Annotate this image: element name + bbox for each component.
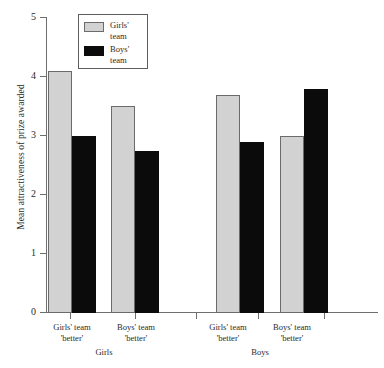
bar-boys-team-boys-better (135, 151, 159, 313)
bar-girls-team-boys-better (111, 106, 135, 313)
bar-boys-team-girls-better-2 (240, 142, 264, 313)
x-label-4: Boys' team 'better' (252, 322, 332, 344)
y-tick-label-0: 0 (22, 306, 36, 317)
boys-swatch-icon (84, 46, 104, 56)
legend-label-girls-line2: team (110, 31, 129, 42)
bar-girls-team-girls-better-2 (216, 95, 240, 313)
legend-label-girls-team: Girls' team (110, 20, 129, 41)
y-tick-1 (40, 253, 46, 254)
x-tick-4 (258, 313, 259, 319)
legend-label-boys-team: Boys' team (110, 44, 129, 65)
y-tick-3 (40, 135, 46, 136)
bar-girls-team-boys-better-2 (280, 136, 304, 313)
x-label-4-line1: Boys' team (252, 322, 332, 333)
x-tick-3 (196, 313, 197, 319)
group-label-boys: Boys (220, 347, 300, 357)
y-tick-0 (40, 312, 46, 313)
x-label-4-line2: 'better' (252, 333, 332, 344)
y-tick-label-4: 4 (22, 70, 36, 81)
y-tick-label-3: 3 (22, 129, 36, 140)
bar-girls-team-girls-better (48, 71, 72, 313)
legend: Girls' team Boys' team (78, 14, 148, 69)
x-label-2: Boys' team 'better' (96, 322, 176, 344)
y-tick-5 (40, 17, 46, 18)
x-tick-1 (70, 313, 71, 319)
x-tick-5 (324, 313, 325, 319)
y-tick-label-5: 5 (22, 11, 36, 22)
bar-chart: Mean attractiveness of prize awarded 5 4… (0, 0, 384, 368)
group-label-girls: Girls (64, 347, 144, 357)
y-tick-label-2: 2 (22, 188, 36, 199)
y-tick-2 (40, 194, 46, 195)
x-label-2-line2: 'better' (96, 333, 176, 344)
legend-label-boys-line2: team (110, 55, 129, 66)
y-axis-title: Mean attractiveness of prize awarded (16, 57, 26, 257)
x-label-2-line1: Boys' team (96, 322, 176, 333)
y-tick-label-1: 1 (22, 247, 36, 258)
legend-item-girls-team: Girls' team (84, 20, 129, 41)
y-tick-4 (40, 76, 46, 77)
x-tick-2 (135, 313, 136, 319)
legend-label-girls-line1: Girls' (110, 20, 129, 31)
bar-boys-team-boys-better-2 (304, 89, 328, 313)
bar-boys-team-girls-better (72, 136, 96, 313)
girls-swatch-icon (84, 22, 104, 32)
legend-item-boys-team: Boys' team (84, 44, 129, 65)
legend-label-boys-line1: Boys' (110, 44, 129, 55)
